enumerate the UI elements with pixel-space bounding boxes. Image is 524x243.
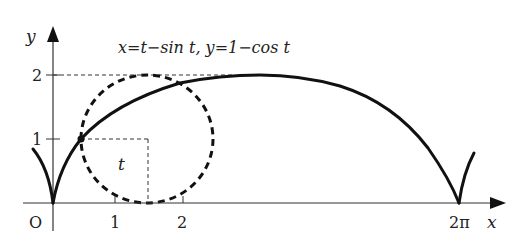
x-axis-arrow-icon: [490, 197, 506, 209]
x-tick-label-1: 1: [110, 213, 120, 232]
y-axis-label: y: [25, 26, 36, 46]
cycloid-diagram: y x O 2 1 1 2 2π t x=t−sin t, y=1−cos t: [0, 0, 524, 243]
cycloid-right-stub: [459, 153, 474, 203]
y-tick-label-2: 2: [32, 66, 42, 85]
curve-point: [78, 136, 85, 143]
cycloid-left-stub: [33, 149, 53, 203]
y-tick-label-1: 1: [32, 130, 42, 149]
x-tick-label-2: 2: [177, 213, 187, 232]
y-axis-arrow-icon: [47, 26, 59, 42]
equation-label: x=t−sin t, y=1−cos t: [118, 38, 291, 57]
cycloid-curve: [53, 75, 459, 203]
angle-label: t: [118, 154, 125, 174]
x-tick-label-2pi: 2π: [449, 213, 470, 232]
origin-label: O: [29, 213, 42, 232]
x-axis-label: x: [487, 212, 497, 232]
